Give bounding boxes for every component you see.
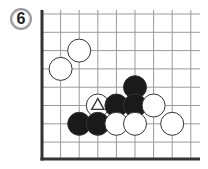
white-stone-circle [124,112,147,135]
white-stone-circle [49,57,72,80]
board-grid [41,10,201,161]
white-stone-circle [161,112,184,135]
white-stone [68,39,91,62]
white-stone-circle [68,39,91,62]
go-board-diagram [0,0,208,169]
white-stone-circle [142,94,165,117]
white-stone [49,57,72,80]
white-stone [124,112,147,135]
white-stone [142,94,165,117]
white-stone [161,112,184,135]
